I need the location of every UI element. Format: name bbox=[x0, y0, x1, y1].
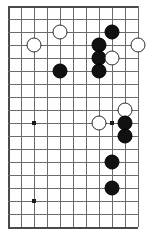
grid-line-horizontal-15 bbox=[8, 201, 138, 202]
grid-line-vertical-1 bbox=[21, 6, 22, 227]
white-stone-6[interactable] bbox=[105, 51, 120, 66]
grid-line-vertical-0 bbox=[8, 6, 10, 227]
black-stone-13[interactable] bbox=[105, 155, 120, 170]
black-stone-8[interactable] bbox=[92, 64, 107, 79]
grid-line-horizontal-16 bbox=[8, 214, 138, 215]
star-point-2 bbox=[32, 199, 36, 203]
grid-line-horizontal-6 bbox=[8, 84, 138, 85]
go-board-canvas[interactable] bbox=[0, 0, 154, 236]
grid-line-vertical-3 bbox=[47, 6, 48, 227]
grid-line-vertical-5 bbox=[73, 6, 74, 227]
white-stone-2[interactable] bbox=[27, 38, 42, 53]
grid-line-horizontal-5 bbox=[8, 71, 138, 72]
black-stone-0[interactable] bbox=[105, 25, 120, 40]
black-stone-12[interactable] bbox=[118, 129, 133, 144]
grid-line-horizontal-7 bbox=[8, 97, 138, 98]
white-stone-10[interactable] bbox=[92, 116, 107, 131]
white-stone-4[interactable] bbox=[131, 38, 146, 53]
star-point-3 bbox=[110, 121, 114, 125]
grid-line-horizontal-17 bbox=[8, 227, 138, 229]
black-stone-7[interactable] bbox=[53, 64, 68, 79]
black-stone-14[interactable] bbox=[105, 181, 120, 196]
grid-line-horizontal-0 bbox=[8, 6, 138, 8]
grid-line-horizontal-1 bbox=[8, 19, 138, 20]
go-board-diagram bbox=[0, 0, 154, 236]
grid-line-vertical-6 bbox=[86, 6, 87, 227]
white-stone-1[interactable] bbox=[53, 25, 68, 40]
star-point-1 bbox=[32, 121, 36, 125]
grid-line-horizontal-13 bbox=[8, 175, 138, 176]
grid-line-horizontal-11 bbox=[8, 149, 138, 150]
